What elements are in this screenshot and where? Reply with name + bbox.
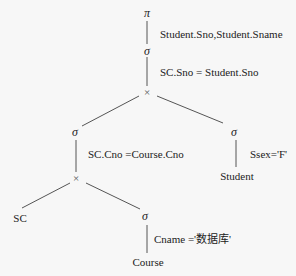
relation-sc: SC xyxy=(13,213,26,224)
selection-course-symbol: σ xyxy=(142,210,148,222)
selection-left-condition: SC.Cno =Course.Cno xyxy=(88,149,184,160)
relation-course: Course xyxy=(132,257,163,268)
query-tree-diagram: π Student.Sno,Student.Sname σ SC.Sno = S… xyxy=(0,0,296,276)
edge-cross-bottom-sc xyxy=(22,183,70,208)
cross-product-top-symbol: × xyxy=(144,87,150,98)
tree-edges xyxy=(0,0,296,276)
selection-course-condition: Cname ='数据库' xyxy=(154,234,231,245)
selection-left-symbol: σ xyxy=(72,126,78,138)
projection-attributes: Student.Sno,Student.Sname xyxy=(160,29,283,40)
projection-symbol: π xyxy=(144,7,150,19)
selection-join-condition: SC.Sno = Student.Sno xyxy=(160,67,259,78)
cross-product-bottom-symbol: × xyxy=(73,173,79,184)
selection-right-symbol: σ xyxy=(231,126,237,138)
edge-cross-top-select-left xyxy=(82,96,139,126)
edge-cross-top-select-right xyxy=(157,96,223,123)
selection-right-condition: Ssex='F' xyxy=(250,149,287,160)
selection-join-symbol: σ xyxy=(144,45,150,57)
edge-cross-bottom-select-course xyxy=(86,183,140,209)
relation-student: Student xyxy=(220,171,254,182)
